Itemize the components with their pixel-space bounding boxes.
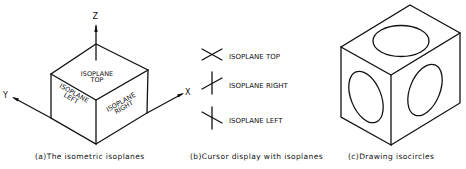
isoplane-top-cursor-icon bbox=[202, 49, 222, 60]
isocircle-top bbox=[373, 26, 429, 57]
z-arrow-icon bbox=[94, 24, 97, 32]
x-axis bbox=[147, 94, 182, 113]
figure-b-cursor-display: ISOPLANE TOP ISOPLANE RIGHT ISOPLANE LEF… bbox=[190, 49, 323, 161]
y-axis-label: Y bbox=[2, 91, 8, 100]
cube-c-right-face bbox=[391, 33, 460, 145]
figure-c-caption: (c)Drawing isocircles bbox=[348, 152, 434, 161]
cursor-label-top: ISOPLANE TOP bbox=[229, 53, 280, 61]
isoplane-left-cursor-icon bbox=[202, 107, 222, 129]
z-axis-label: Z bbox=[93, 12, 99, 21]
isocircle-left bbox=[342, 66, 390, 127]
figure-c-isocircles: (c)Drawing isocircles bbox=[341, 5, 460, 161]
figure-a-caption: (a)The isometric isoplanes bbox=[35, 152, 145, 161]
figure-a-isometric-isoplanes: Z Y X ISOPLANE TOP ISOPLANE LEFT ISOPLAN… bbox=[2, 12, 191, 161]
cube-c-top-face bbox=[341, 5, 460, 75]
cursor-label-right: ISOPLANE RIGHT bbox=[229, 82, 289, 90]
x-axis-label: X bbox=[185, 88, 191, 97]
isoplane-right-cursor-icon bbox=[202, 72, 222, 94]
y-axis bbox=[14, 98, 51, 118]
isometric-diagram: Z Y X ISOPLANE TOP ISOPLANE LEFT ISOPLAN… bbox=[0, 0, 466, 169]
top-face-label-line2: TOP bbox=[89, 76, 103, 84]
cube-left-face bbox=[51, 74, 96, 144]
figure-b-caption: (b)Cursor display with isoplanes bbox=[190, 152, 323, 161]
isocircle-right bbox=[401, 59, 449, 120]
cursor-label-left: ISOPLANE LEFT bbox=[229, 117, 283, 125]
